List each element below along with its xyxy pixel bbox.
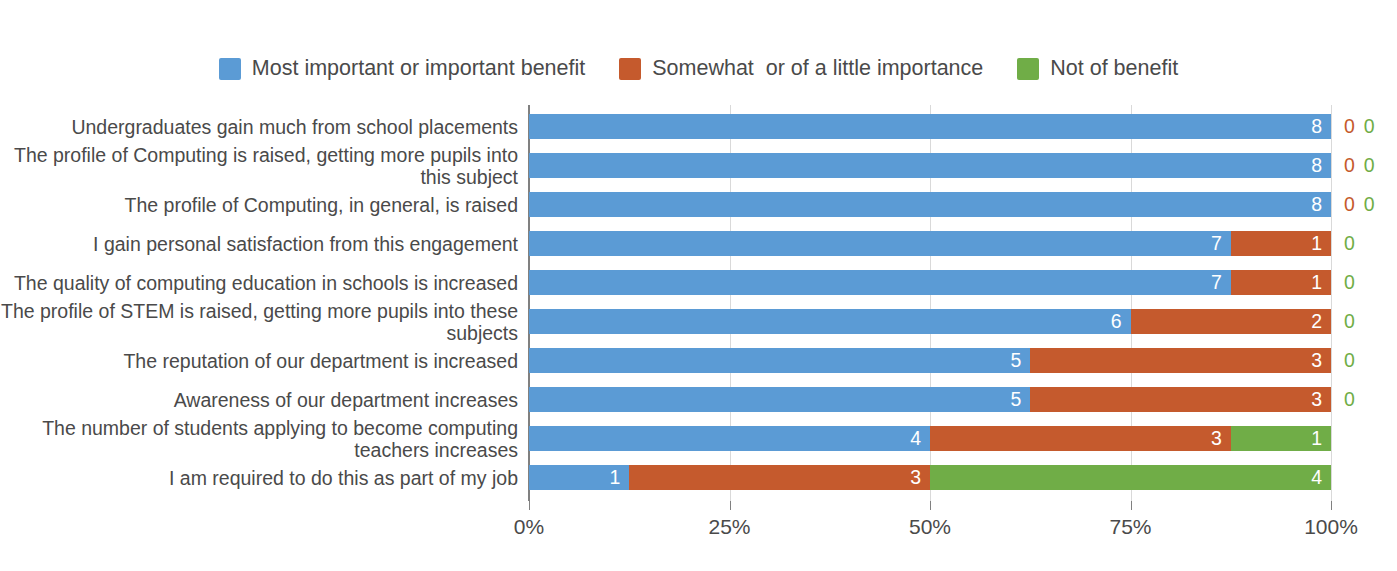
category-label: Undergraduates gain much from school pla… — [0, 116, 524, 138]
bar-segment[interactable]: 8 — [529, 114, 1331, 139]
category-label: The number of students applying to becom… — [0, 417, 524, 461]
chart-legend: Most important or important benefitSomew… — [0, 52, 1397, 86]
bar-row[interactable]: 71 — [529, 270, 1331, 295]
bar-segment-value: 3 — [910, 468, 930, 488]
bar-segment[interactable]: 4 — [930, 465, 1331, 490]
bar-row[interactable]: 53 — [529, 348, 1331, 373]
bar-segment-value: 3 — [1311, 390, 1331, 410]
bar-segment-value: 1 — [1311, 429, 1331, 449]
zero-value-labels: 0 — [1331, 270, 1355, 295]
bar-segment-value: 8 — [1311, 156, 1331, 176]
bar-segment-value: 0 — [1344, 273, 1355, 293]
category-label: The profile of Computing, in general, is… — [0, 194, 524, 216]
category-label: The quality of computing education in sc… — [0, 272, 524, 294]
chart-plot-area: Undergraduates gain much from school pla… — [0, 105, 1397, 505]
bar-row[interactable]: 62 — [529, 309, 1331, 334]
bar-segment-value: 1 — [609, 468, 629, 488]
bar-segment-value: 5 — [1010, 351, 1030, 371]
category-label: Awareness of our department increases — [0, 389, 524, 411]
zero-value-labels: 0 — [1331, 348, 1355, 373]
axis-tick-mark — [529, 501, 530, 510]
legend-item-label: Not of benefit — [1050, 58, 1178, 80]
bar-segment-value: 0 — [1344, 117, 1355, 137]
bar-segment-value: 0 — [1344, 195, 1355, 215]
bar-segment-value: 0 — [1344, 351, 1355, 371]
zero-value-labels: 00 — [1331, 192, 1375, 217]
bar-segment-value: 0 — [1364, 195, 1375, 215]
zero-value-labels: 00 — [1331, 114, 1375, 139]
bar-segment-value: 0 — [1344, 234, 1355, 254]
axis-tick-label: 0% — [514, 515, 544, 539]
bar-segment-value: 4 — [1311, 468, 1331, 488]
category-axis-labels: Undergraduates gain much from school pla… — [0, 105, 524, 501]
zero-value-labels: 0 — [1331, 387, 1355, 412]
bar-segment[interactable]: 7 — [529, 270, 1231, 295]
bar-segment[interactable]: 5 — [529, 387, 1030, 412]
bar-segment-value: 0 — [1364, 117, 1375, 137]
bar-row[interactable]: 8 — [529, 114, 1331, 139]
bar-segment[interactable]: 3 — [1030, 387, 1331, 412]
zero-value-labels: 0 — [1331, 309, 1355, 334]
bar-segment[interactable]: 3 — [629, 465, 930, 490]
bar-segment[interactable]: 4 — [529, 426, 930, 451]
category-label: I gain personal satisfaction from this e… — [0, 233, 524, 255]
axis-tick-mark — [930, 501, 931, 510]
axis-tick-label: 25% — [708, 515, 750, 539]
bar-row[interactable]: 8 — [529, 192, 1331, 217]
bar-row[interactable]: 53 — [529, 387, 1331, 412]
bar-segment-value: 3 — [1211, 429, 1231, 449]
category-label: I am required to do this as part of my j… — [0, 467, 524, 489]
axis-tick-label: 50% — [909, 515, 951, 539]
category-label: The profile of STEM is raised, getting m… — [0, 300, 524, 344]
bar-segment-value: 1 — [1311, 234, 1331, 254]
bar-segment[interactable]: 5 — [529, 348, 1030, 373]
bar-segment-value: 1 — [1311, 273, 1331, 293]
bar-row[interactable]: 71 — [529, 231, 1331, 256]
bar-segment-value: 2 — [1311, 312, 1331, 332]
axis-tick-mark — [1331, 501, 1332, 510]
bar-row[interactable]: 8 — [529, 153, 1331, 178]
bar-segment-value: 0 — [1364, 156, 1375, 176]
bar-segment[interactable]: 1 — [1231, 426, 1331, 451]
bar-segment-value: 0 — [1344, 390, 1355, 410]
bar-segment-value: 0 — [1344, 156, 1355, 176]
bar-segment[interactable]: 3 — [930, 426, 1231, 451]
bar-segment[interactable]: 8 — [529, 192, 1331, 217]
bar-segment[interactable]: 3 — [1030, 348, 1331, 373]
bar-row[interactable]: 431 — [529, 426, 1331, 451]
bar-segment-value: 8 — [1311, 117, 1331, 137]
bar-segment-value: 4 — [910, 429, 930, 449]
bar-segment-value: 6 — [1111, 312, 1131, 332]
bar-segment[interactable]: 6 — [529, 309, 1131, 334]
axis-tick-label: 100% — [1304, 515, 1358, 539]
bar-segment-value: 7 — [1211, 273, 1231, 293]
legend-item[interactable]: Most important or important benefit — [219, 58, 585, 80]
axis-tick-mark — [730, 501, 731, 510]
category-label: The reputation of our department is incr… — [0, 350, 524, 372]
bar-segment-value: 5 — [1010, 390, 1030, 410]
legend-swatch-icon — [1017, 58, 1039, 80]
legend-item-label: Somewhat or of a little importance — [652, 58, 983, 80]
axis-tick-label: 75% — [1109, 515, 1151, 539]
bar-segment[interactable]: 1 — [1231, 270, 1331, 295]
bar-segment[interactable]: 2 — [1131, 309, 1332, 334]
bar-segment-value: 7 — [1211, 234, 1231, 254]
legend-swatch-icon — [619, 58, 641, 80]
bar-segment-value: 0 — [1344, 312, 1355, 332]
legend-item[interactable]: Not of benefit — [1017, 58, 1178, 80]
bar-row[interactable]: 134 — [529, 465, 1331, 490]
bar-segment[interactable]: 1 — [529, 465, 629, 490]
bars-container: 800800800710710620530530431134 — [529, 105, 1331, 501]
bar-segment-value: 3 — [1311, 351, 1331, 371]
legend-item[interactable]: Somewhat or of a little importance — [619, 58, 983, 80]
axis-tick-mark — [1131, 501, 1132, 510]
legend-item-label: Most important or important benefit — [252, 58, 585, 80]
bar-segment-value: 8 — [1311, 195, 1331, 215]
legend-swatch-icon — [219, 58, 241, 80]
zero-value-labels: 00 — [1331, 153, 1375, 178]
bar-segment[interactable]: 7 — [529, 231, 1231, 256]
bar-segment[interactable]: 8 — [529, 153, 1331, 178]
category-label: The profile of Computing is raised, gett… — [0, 144, 524, 188]
bar-segment[interactable]: 1 — [1231, 231, 1331, 256]
zero-value-labels: 0 — [1331, 231, 1355, 256]
